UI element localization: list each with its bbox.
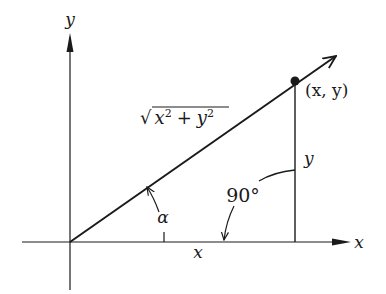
horizontal-leg-label: x [193,242,203,262]
y-axis: y [64,9,75,290]
right-angle: 90° [224,170,295,240]
y-axis-arrow-icon [67,33,74,52]
right-angle-arrow-icon [224,206,234,240]
vertical-leg: y [295,81,314,242]
x-axis-label: x [354,232,364,252]
hyp-plus: + [177,107,192,128]
point-xy: (x, y) [291,77,349,101]
x-axis-arrow-icon [332,239,351,246]
polar-coordinate-diagram: y x √x2+y2 (x, y) y x α 90° [0,0,386,294]
point-label: (x, y) [305,80,348,100]
vertical-leg-label: y [303,148,314,168]
hyp-x: x [154,107,164,128]
radical-sign: √ [140,107,152,128]
hyp-exp2: 2 [207,107,214,120]
alpha-angle: α [147,187,169,242]
y-axis-label: y [64,9,75,29]
right-angle-label: 90° [226,184,260,206]
right-angle-arc [259,170,295,181]
hyp-exp1: 2 [165,107,172,120]
hypotenuse-label: √x2+y2 [140,107,214,128]
alpha-label: α [157,207,169,227]
